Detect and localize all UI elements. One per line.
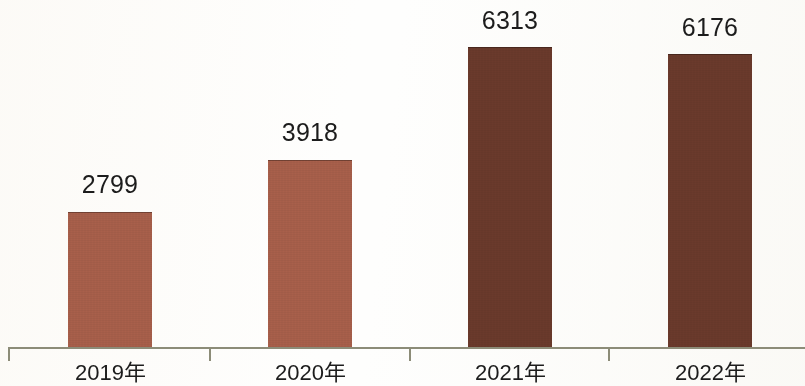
x-axis-category-label-2022: 2022年 xyxy=(658,362,763,384)
x-axis-category-label-2021: 2021年 xyxy=(458,362,563,384)
bar-2021[interactable] xyxy=(468,47,552,348)
x-axis-tick-start xyxy=(8,347,10,361)
bar-texture xyxy=(68,212,152,348)
bar-top-edge xyxy=(468,47,552,48)
x-axis-category-label-2020: 2020年 xyxy=(258,362,363,384)
bar-2019[interactable] xyxy=(68,212,152,348)
bar-value-label: 6313 xyxy=(460,8,560,33)
bar-top-edge xyxy=(68,212,152,213)
bar-texture xyxy=(468,47,552,348)
bar-value-label: 2799 xyxy=(60,172,160,197)
bar-2020[interactable] xyxy=(268,160,352,348)
bar-texture xyxy=(668,54,752,348)
x-axis-category-label-2019: 2019年 xyxy=(58,362,163,384)
x-axis-tick-3 xyxy=(608,347,610,361)
bar-value-label: 3918 xyxy=(260,120,360,145)
bar-top-edge xyxy=(668,54,752,55)
x-axis-tick-1 xyxy=(209,347,211,361)
x-axis-tick-2 xyxy=(409,347,411,361)
bar-value-label: 6176 xyxy=(660,15,760,40)
chart-page: 2799 3918 6313 6176 2019年 2020年 2 xyxy=(0,0,805,386)
bar-texture xyxy=(268,160,352,348)
bar-2022[interactable] xyxy=(668,54,752,348)
bar-chart-plot-area: 2799 3918 6313 6176 2019年 2020年 2 xyxy=(0,0,805,386)
bar-top-edge xyxy=(268,160,352,161)
x-axis-baseline xyxy=(8,347,805,349)
